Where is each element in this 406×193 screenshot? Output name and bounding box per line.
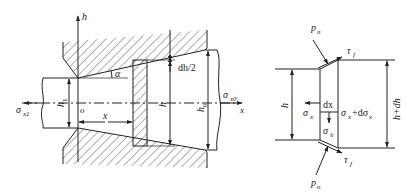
svg-text:x: x (368, 113, 373, 121)
svg-text:h+dh: h+dh (391, 98, 402, 120)
h-label: h (157, 102, 168, 107)
svg-text:+dσ: +dσ (352, 107, 369, 118)
pn-bottom-arrow (316, 146, 328, 175)
pn-top-arrow (313, 40, 328, 64)
dh-point (169, 56, 172, 59)
pn-top-label: p n (310, 22, 321, 36)
svg-text:σ: σ (303, 107, 309, 118)
svg-text:σ: σ (341, 107, 347, 118)
svg-text:x1: x1 (22, 110, 30, 118)
sigma-x0-label: σ x0 (223, 89, 237, 103)
svg-text:n: n (317, 183, 321, 191)
h-plus-dh-label: h+dh (391, 98, 402, 120)
sigma-h-label: σ h (323, 125, 334, 139)
die-drawing-diagram: h o α dh/2 x h 1 h h 0 σ x1 σ x0 x (0, 0, 406, 193)
dx-label: dx (323, 99, 333, 110)
svg-text:x: x (309, 113, 314, 121)
tau-top-label: τ f (347, 45, 356, 59)
x-axis-label: x (239, 105, 244, 115)
svg-text:x0: x0 (229, 95, 237, 103)
origin-label: o (80, 105, 85, 115)
element-top-edge (275, 60, 395, 69)
svg-text:p: p (310, 177, 316, 188)
tau-bottom-label: τ f (344, 154, 353, 168)
sigma-x-plus-dsigma-label: σ x +dσ x (341, 107, 373, 121)
left-panel (22, 16, 242, 168)
alpha-arc (111, 71, 112, 78)
svg-text:h: h (279, 103, 290, 108)
h0-label: h 0 (195, 103, 209, 112)
svg-text:p: p (310, 22, 316, 33)
pn-bottom-label: p n (310, 177, 321, 191)
dh-half-label: dh/2 (178, 62, 196, 73)
h-left-label: h (279, 103, 290, 108)
svg-text:σ: σ (323, 125, 329, 136)
sigma-x1-label: σ x1 (16, 104, 30, 118)
right-labels: p n τ f h h+dh dx σ x σ x +dσ x σ h (279, 22, 402, 191)
right-panel (275, 40, 395, 175)
sigma-x-label: σ x (303, 107, 314, 121)
svg-text:σ: σ (16, 104, 22, 115)
x-dim-label: x (102, 110, 108, 121)
svg-text:σ: σ (223, 89, 229, 100)
svg-text:0: 0 (201, 103, 209, 107)
svg-text:h: h (330, 131, 334, 139)
svg-text:h: h (157, 102, 168, 107)
svg-text:f: f (353, 51, 356, 59)
svg-text:n: n (317, 28, 321, 36)
svg-text:τ: τ (347, 45, 351, 56)
h1-label: h 1 (55, 98, 69, 107)
h-axis-label: h (82, 11, 87, 22)
break-line-right (217, 50, 221, 150)
svg-text:f: f (350, 160, 353, 168)
svg-text:1: 1 (61, 98, 69, 102)
svg-text:τ: τ (344, 154, 348, 165)
element-bottom-edge (275, 140, 395, 148)
alpha-label: α (115, 68, 121, 79)
